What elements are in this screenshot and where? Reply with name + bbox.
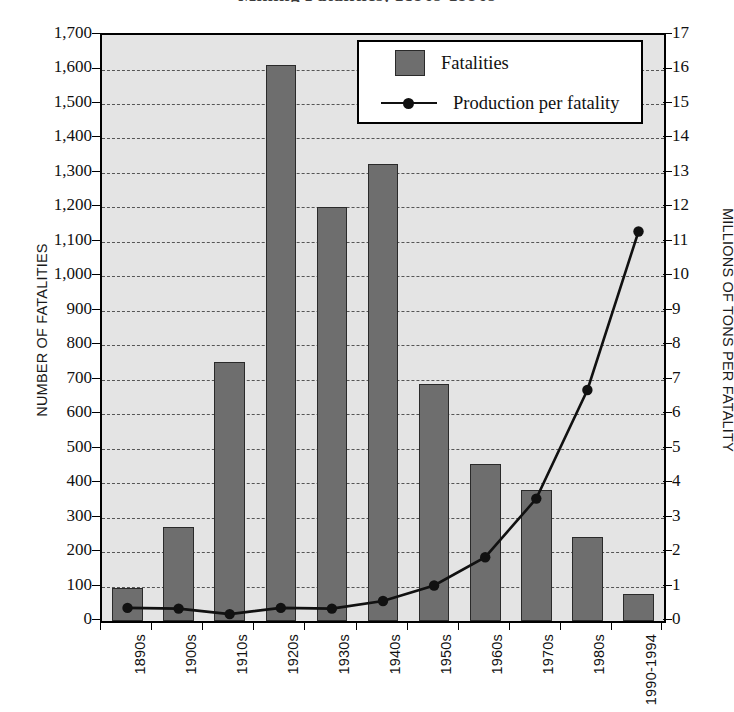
x-axis-tick-label: 1990-1994 (643, 634, 659, 705)
y-axis-right-tick-mark (663, 33, 672, 34)
line-data-point-marker (276, 603, 286, 613)
y-axis-right-tick-label: 11 (672, 231, 688, 248)
x-axis-tick-label: 1890s (132, 634, 148, 675)
y-axis-right-tick-mark (663, 447, 672, 448)
legend-item-fatalities: Fatalities (359, 42, 641, 84)
y-axis-right-tick-mark (663, 102, 672, 103)
line-data-point-marker (531, 493, 541, 503)
line-data-point-marker (429, 580, 439, 590)
y-axis-left-tick-labels: 01002003004005006007008009001,0001,1001,… (20, 33, 92, 619)
x-axis-tick-mark (661, 621, 662, 630)
y-axis-right-tick-label: 2 (672, 541, 681, 558)
y-axis-right-tick-label: 16 (672, 58, 689, 75)
y-axis-right-tick-label: 9 (672, 300, 681, 317)
x-axis-tick-label: 1940s (387, 634, 403, 675)
line-data-point-marker (480, 552, 490, 562)
x-axis-tick-mark (509, 621, 510, 630)
y-axis-right-tick-mark (663, 240, 672, 241)
y-axis-left-tick-label: 700 (67, 369, 93, 386)
y-axis-right-tick-label: 3 (672, 507, 681, 524)
line-data-point-marker (582, 385, 592, 395)
x-axis-tick-labels: 1890s1900s1910s1920s1930s1940s1950s1960s… (100, 634, 662, 712)
legend-item-production-per-fatality: Production per fatality (359, 82, 641, 124)
x-axis-tick-label: 1950s (438, 634, 454, 675)
y-axis-right-tick-mark (663, 550, 672, 551)
y-axis-right-tick-mark (663, 481, 672, 482)
y-axis-left-tick-label: 1,700 (54, 24, 92, 41)
y-axis-right-tick-label: 14 (672, 127, 689, 144)
line-data-point-marker (122, 603, 132, 613)
y-axis-right-tick-label: 8 (672, 334, 681, 351)
y-axis-left-tick-label: 300 (67, 507, 93, 524)
legend-label-fatalities: Fatalities (441, 53, 509, 74)
y-axis-right-tick-label: 4 (672, 472, 681, 489)
x-axis-tick-mark (202, 621, 203, 630)
x-axis-tick-marks (100, 621, 662, 631)
y-axis-left-tick-label: 1,000 (54, 265, 92, 282)
line-data-point-marker (633, 226, 643, 236)
x-axis-tick-mark (611, 621, 612, 630)
x-axis-tick-mark (304, 621, 305, 630)
y-axis-right-tick-label: 17 (672, 24, 689, 41)
x-axis-tick-mark (356, 621, 357, 630)
legend-line-swatch-icon (381, 93, 437, 113)
y-axis-left-tick-label: 1,400 (54, 127, 92, 144)
line-data-point-marker (173, 603, 183, 613)
y-axis-left-tick-label: 100 (67, 576, 93, 593)
y-axis-left-tick-label: 800 (67, 334, 93, 351)
x-axis-tick-label: 1970s (540, 634, 556, 675)
x-axis-tick-mark (560, 621, 561, 630)
y-axis-right-tick-mark (663, 171, 672, 172)
y-axis-right-tick-label: 6 (672, 403, 681, 420)
y-axis-right-tick-mark (663, 343, 672, 344)
x-axis-tick-label: 1930s (336, 634, 352, 675)
legend-bar-swatch-icon (395, 50, 425, 76)
y-axis-right-tick-mark (663, 68, 672, 69)
line-data-point-marker (327, 603, 337, 613)
x-axis-tick-mark (100, 621, 101, 630)
y-axis-right-tick-mark (663, 378, 672, 379)
x-axis-tick-mark (253, 621, 254, 630)
y-axis-right-tick-label: 5 (672, 438, 681, 455)
chart-title: Mining Fatalities, 1890s-1990s (0, 0, 734, 2)
y-axis-left-tick-label: 200 (67, 541, 93, 558)
y-axis-right-tick-label: 10 (672, 265, 689, 282)
y-axis-right-tick-mark (663, 309, 672, 310)
chart-legend: Fatalities Production per fatality (357, 40, 643, 124)
chart-container: Mining Fatalities, 1890s-1990s NUMBER OF… (0, 0, 734, 712)
y-axis-right-tick-label: 15 (672, 93, 689, 110)
y-axis-left-tick-label: 1,500 (54, 93, 92, 110)
y-axis-right-tick-label: 0 (672, 610, 681, 627)
x-axis-tick-mark (151, 621, 152, 630)
x-axis-tick-label: 1980s (591, 634, 607, 675)
x-axis-tick-mark (458, 621, 459, 630)
y-axis-left-tick-label: 1,300 (54, 162, 92, 179)
y-axis-left-tick-label: 500 (67, 438, 93, 455)
x-axis-tick-label: 1920s (285, 634, 301, 675)
y-axis-right-tick-marks (663, 33, 673, 619)
y-axis-right-tick-mark (663, 136, 672, 137)
y-axis-right-tick-mark (663, 585, 672, 586)
y-axis-right-tick-labels: 01234567891011121314151617 (672, 33, 728, 619)
y-axis-left-tick-label: 600 (67, 403, 93, 420)
y-axis-right-tick-label: 13 (672, 162, 689, 179)
y-axis-right-tick-label: 7 (672, 369, 681, 386)
y-axis-left-tick-label: 900 (67, 300, 93, 317)
y-axis-right-tick-mark (663, 274, 672, 275)
line-path (128, 232, 639, 615)
y-axis-left-tick-label: 400 (67, 472, 93, 489)
y-axis-left-tick-label: 0 (84, 610, 93, 627)
y-axis-right-tick-mark (663, 205, 672, 206)
y-axis-right-tick-label: 1 (672, 576, 681, 593)
line-data-point-marker (378, 596, 388, 606)
x-axis-tick-mark (407, 621, 408, 630)
y-axis-right-tick-label: 12 (672, 196, 689, 213)
line-data-point-marker (225, 609, 235, 619)
y-axis-left-tick-label: 1,600 (54, 58, 92, 75)
legend-label-production-per-fatality: Production per fatality (453, 93, 619, 114)
y-axis-left-tick-label: 1,200 (54, 196, 92, 213)
y-axis-right-tick-mark (663, 516, 672, 517)
y-axis-left-tick-label: 1,100 (54, 231, 92, 248)
y-axis-right-tick-mark (663, 412, 672, 413)
y-axis-right-tick-mark (663, 619, 672, 620)
